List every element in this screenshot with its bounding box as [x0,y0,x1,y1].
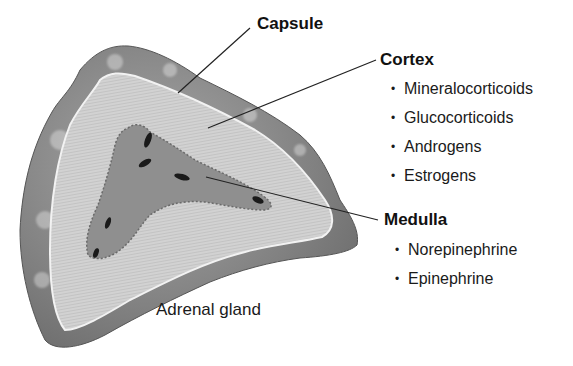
cortex-item: •Glucocorticoids [388,109,513,127]
cortex-label: Cortex [380,50,434,70]
bullet-icon: • [392,272,402,286]
medulla-item: •Norepinephrine [392,241,517,259]
bullet-icon: • [388,140,398,154]
cortex-layer [50,73,332,330]
bullet-icon: • [392,243,402,257]
cortex-item: •Androgens [388,138,481,156]
capsule-leader-line [178,28,250,93]
bullet-icon: • [388,82,398,96]
diagram-caption: Adrenal gland [156,300,261,320]
capsule-label: Capsule [257,14,323,34]
cortex-item: •Estrogens [388,167,476,185]
medulla-item: •Epinephrine [392,270,493,288]
adrenal-gland-illustration [0,0,573,366]
medulla-label: Medulla [384,210,447,230]
cortex-item: •Mineralocorticoids [388,80,533,98]
bullet-icon: • [388,111,398,125]
bullet-icon: • [388,169,398,183]
